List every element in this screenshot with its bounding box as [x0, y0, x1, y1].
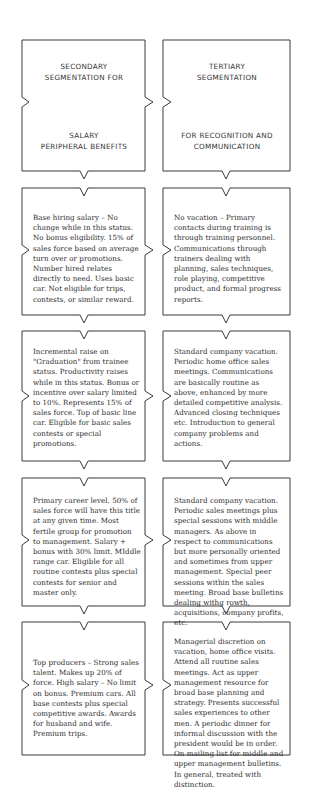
left-header: SECONDARY SEGMENTATION FOR	[26, 62, 142, 83]
left-header-line2: SEGMENTATION FOR	[26, 73, 142, 84]
left-box-2-text: Incremental raise on "Graduation" from t…	[33, 347, 141, 449]
left-box-1-text: Base hiring salary – No change while in …	[33, 213, 141, 305]
right-header: TERTIARY SEGMENTATION	[167, 62, 287, 83]
right-box-3-text: Standard company vacation. Periodic sale…	[174, 496, 284, 629]
left-box-4-text: Top producers – Strong sales talent. Mak…	[33, 658, 141, 740]
left-header-line1: SECONDARY	[26, 62, 142, 73]
left-header-line4: PERIPHERAL BENEFITS	[26, 142, 142, 153]
right-header-line2: SEGMENTATION	[167, 73, 287, 84]
left-header-line3: SALARY	[26, 131, 142, 142]
right-header-line3: FOR RECOGNITION AND	[167, 131, 287, 142]
left-header-frame	[22, 40, 153, 179]
segmentation-diagram: SECONDARY SEGMENTATION FOR SALARY PERIPH…	[0, 0, 313, 787]
right-header-sub: FOR RECOGNITION AND COMMUNICATION	[167, 131, 287, 152]
right-box-2-text: Standard company vacation. Periodic home…	[174, 347, 284, 449]
left-box-3-text: Primary career level. 50% of sales force…	[33, 496, 141, 598]
right-header-line4: COMMUNICATION	[167, 142, 287, 153]
right-box-1-text: No vacation – Primary contacts during tr…	[174, 213, 284, 305]
right-header-line1: TERTIARY	[167, 62, 287, 73]
right-box-4-text: Managerial discretion on vacation, home …	[174, 637, 284, 787]
right-header-frame	[163, 40, 290, 179]
left-header-sub: SALARY PERIPHERAL BENEFITS	[26, 131, 142, 152]
